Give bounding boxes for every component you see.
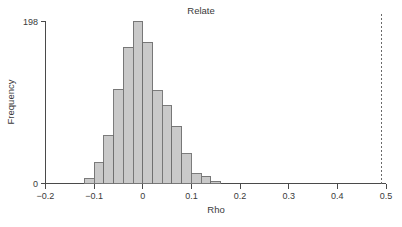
histogram-bar (211, 181, 221, 183)
histogram-bar (191, 174, 201, 184)
x-tick-label-0.4: 0.4 (331, 191, 344, 201)
x-tick-label--0.1: −0.1 (85, 191, 103, 201)
histogram-figure: Relate 198 0 Frequency −0.2−0.100.10.20.… (0, 0, 402, 227)
histogram-bar (172, 126, 182, 183)
histogram-bars (84, 21, 220, 184)
histogram-bar (162, 106, 172, 184)
y-axis-title: Frequency (5, 79, 16, 124)
y-tick-label-198: 198 (23, 17, 38, 27)
histogram-bar (84, 179, 94, 184)
histogram-bar (182, 154, 192, 184)
x-tick-label--0.2: −0.2 (37, 191, 55, 201)
histogram-bar (94, 163, 104, 184)
histogram-bar (143, 42, 153, 183)
histogram-bar (123, 47, 133, 183)
x-axis-title: Rho (207, 204, 224, 215)
x-tick-label-0.5: 0.5 (380, 191, 393, 201)
histogram-bar (133, 21, 143, 184)
histogram-bar (104, 136, 114, 184)
histogram-bar (153, 91, 163, 184)
x-tick-label-0.2: 0.2 (234, 191, 247, 201)
x-axis-ticks: −0.2−0.100.10.20.30.40.5 (37, 184, 393, 201)
histogram-bar (201, 176, 211, 183)
chart-title: Relate (187, 5, 214, 16)
x-tick-label-0: 0 (140, 191, 145, 201)
histogram-bar (114, 89, 124, 183)
y-tick-label-0: 0 (33, 179, 38, 189)
y-axis-ticks: 198 0 (23, 17, 46, 189)
x-tick-label-0.3: 0.3 (282, 191, 295, 201)
x-tick-label-0.1: 0.1 (185, 191, 198, 201)
plot-canvas: Relate 198 0 Frequency −0.2−0.100.10.20.… (0, 0, 402, 227)
